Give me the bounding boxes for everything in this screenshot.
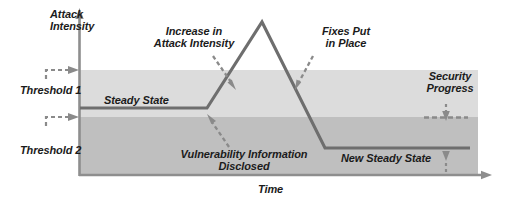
increase-callout-line1: Increase in: [166, 25, 222, 37]
new-steady-state-label: New Steady State: [341, 152, 431, 164]
x-axis-arrowhead: [481, 171, 492, 179]
threshold-2-pointer-dashed: [46, 117, 68, 126]
steady-state-label: Steady State: [104, 94, 169, 106]
security-progress-line2: Progress: [427, 82, 474, 94]
disclosed-callout-label: Vulnerability InformationDisclosed: [164, 148, 324, 173]
disclosed-callout-line2: Disclosed: [218, 160, 269, 172]
fixes-callout-line2: in Place: [326, 37, 367, 49]
fixes-callout-label: Fixes Putin Place: [292, 25, 400, 50]
threshold-1-pointer-arrowhead: [68, 66, 79, 74]
security-progress-label: SecurityProgress: [410, 70, 490, 95]
y-axis-title-line2: Intensity: [50, 20, 94, 32]
security-progress-line1: Security: [429, 70, 472, 82]
y-axis-title: AttackIntensity: [50, 8, 94, 33]
threshold-1-label: Threshold 1: [20, 84, 81, 96]
disclosed-callout-line1: Vulnerability Information: [181, 148, 308, 160]
threshold-2-label: Threshold 2: [20, 144, 81, 156]
y-axis-title-line1: Attack: [50, 8, 83, 20]
attack-intensity-vs-time-diagram: AttackIntensity Time Threshold 1 Thresho…: [0, 0, 505, 202]
threshold-2-pointer-arrowhead: [68, 113, 79, 121]
threshold-1-pointer-dashed: [46, 70, 68, 79]
fixes-callout-line1: Fixes Put: [322, 25, 370, 37]
increase-callout-label: Increase inAttack Intensity: [124, 25, 264, 50]
x-axis-title: Time: [258, 183, 283, 195]
increase-callout-line2: Attack Intensity: [154, 37, 234, 49]
